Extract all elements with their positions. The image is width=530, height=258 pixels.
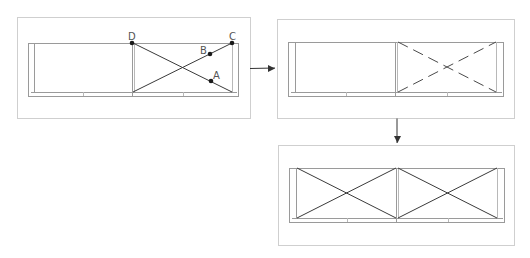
bracing-process-diagram: DCBA bbox=[0, 0, 530, 258]
panel-final bbox=[279, 146, 515, 246]
point-b-label: B bbox=[200, 45, 207, 56]
arrow-right bbox=[250, 65, 275, 72]
panel-initial: DCBA bbox=[18, 18, 251, 119]
point-c-label: C bbox=[229, 31, 236, 42]
arrow-head-icon bbox=[268, 65, 275, 72]
arrow-down bbox=[394, 119, 401, 144]
arrow-head-icon bbox=[394, 136, 401, 143]
point-a-label: A bbox=[213, 70, 220, 81]
diagram-canvas: DCBA bbox=[0, 0, 530, 258]
point-d-label: D bbox=[128, 31, 136, 42]
panel-dashed bbox=[278, 20, 515, 119]
point-b-marker bbox=[208, 52, 213, 57]
